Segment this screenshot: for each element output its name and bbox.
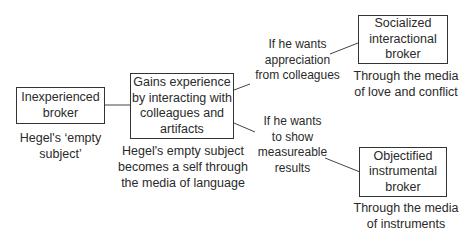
node-socialized-broker: Socialized interactional broker: [358, 15, 448, 64]
edge-label-appreciation: If he wants appreciation from colleagues: [250, 37, 345, 84]
node-gains-experience: Gains experience by interacting with col…: [130, 73, 234, 139]
node-inexperienced-broker: Inexperienced broker: [16, 87, 105, 124]
node-objectified-broker: Objectified instrumental broker: [359, 147, 447, 197]
edge-gains-to-socialized: [234, 84, 250, 90]
node-caption-objectified: Through the media of instruments: [350, 200, 462, 232]
node-label: Gains experience by interacting with col…: [132, 75, 232, 137]
node-label: Inexperienced broker: [21, 90, 100, 121]
node-label: Socialized interactional broker: [369, 16, 436, 63]
node-caption-gains: Hegel's empty subject becomes a self thr…: [118, 143, 248, 191]
node-label: Objectified instrumental broker: [369, 149, 437, 196]
node-caption-socialized: Through the media of love and conflict: [350, 68, 462, 100]
edge-label-measureable: If he wants to show measureable results: [250, 114, 335, 176]
node-caption-inexperienced: Hegel's ‘empty subject’: [8, 130, 113, 162]
